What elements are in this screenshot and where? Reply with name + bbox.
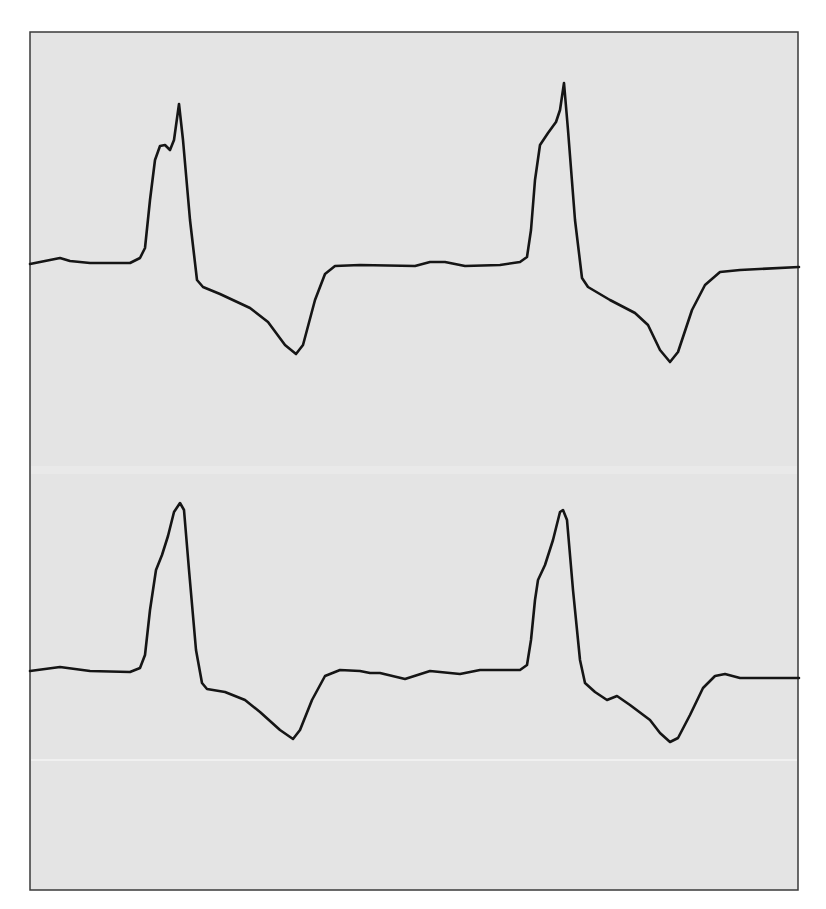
plot-frame	[30, 32, 798, 890]
waveform-figure	[0, 0, 826, 909]
